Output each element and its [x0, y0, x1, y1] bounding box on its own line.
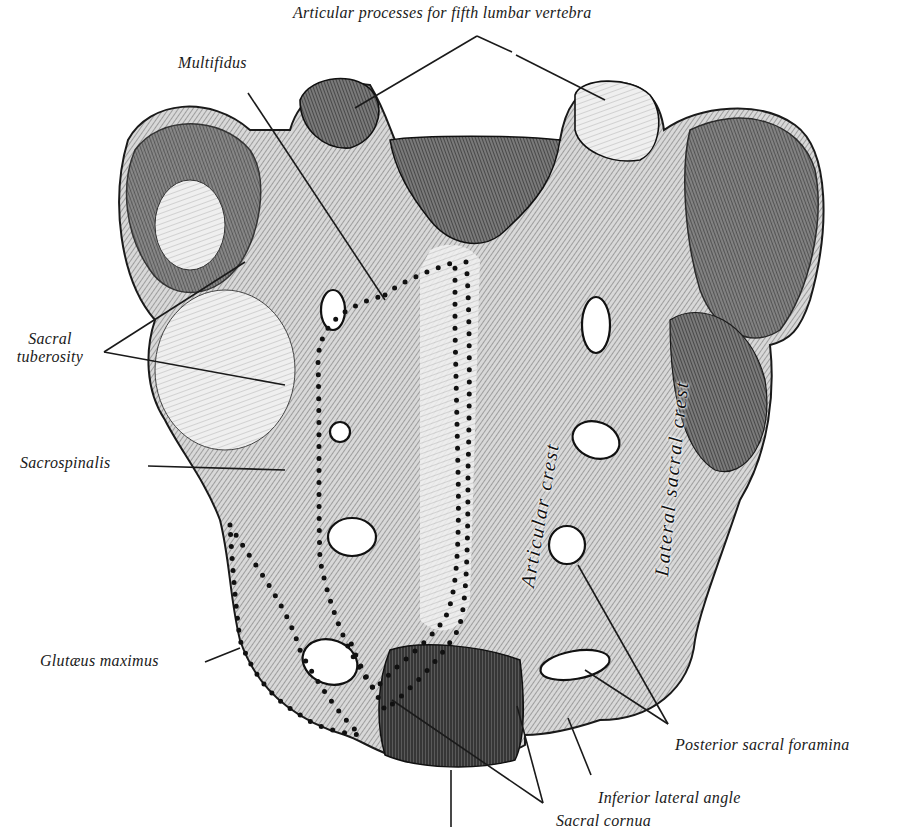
label-articular-processes: Articular processes for fifth lumbar ver… — [293, 4, 592, 22]
leader-lines — [0, 0, 907, 836]
label-sacral-tuberosity: Sacral tuberosity — [12, 330, 88, 367]
label-glutaeus-maximus: Glutæus maximus — [40, 652, 159, 670]
label-posterior-sacral-foramina: Posterior sacral foramina — [675, 736, 850, 754]
label-sacral-tuberosity-line1: Sacral — [12, 330, 88, 348]
label-sacrospinalis: Sacrospinalis — [20, 454, 110, 472]
label-sacral-cornua: Sacral cornua — [556, 812, 651, 830]
label-multifidus: Multifidus — [178, 54, 247, 72]
label-inferior-lateral-angle: Inferior lateral angle — [598, 789, 741, 807]
label-sacral-tuberosity-line2: tuberosity — [12, 348, 88, 366]
